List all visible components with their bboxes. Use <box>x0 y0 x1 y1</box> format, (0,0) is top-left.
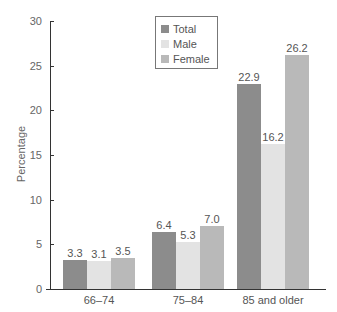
legend: Total Male Female <box>155 16 218 69</box>
bar-chart: Percentage 051015202530 3.33.13.566–746.… <box>0 0 337 312</box>
x-axis-line <box>46 289 326 290</box>
bar-male <box>87 261 111 289</box>
bar-total <box>237 84 261 289</box>
legend-item-total: Total <box>161 21 217 36</box>
bar-male <box>261 144 285 289</box>
legend-label-male: Male <box>173 38 197 50</box>
y-tick-label: 10 <box>12 194 42 206</box>
bar-value-label: 3.5 <box>103 245 143 257</box>
y-tick <box>50 155 54 156</box>
y-tick-label: 15 <box>12 149 42 161</box>
bar-male <box>176 242 200 289</box>
y-tick-label: 30 <box>12 15 42 27</box>
y-tick <box>50 289 54 290</box>
y-tick-label: 25 <box>12 60 42 72</box>
legend-item-male: Male <box>161 36 217 51</box>
y-tick-label: 5 <box>12 238 42 250</box>
bar-value-label: 7.0 <box>192 213 232 225</box>
bar-female <box>285 55 309 289</box>
x-category-label: 85 and older <box>217 294 329 306</box>
y-tick <box>50 66 54 67</box>
legend-swatch-male <box>161 40 169 48</box>
bar-value-label: 26.2 <box>277 42 317 54</box>
legend-swatch-total <box>161 25 169 33</box>
y-tick <box>50 244 54 245</box>
bar-value-label: 22.9 <box>229 71 269 83</box>
legend-label-female: Female <box>173 53 210 65</box>
y-tick <box>50 200 54 201</box>
y-tick-label: 20 <box>12 104 42 116</box>
y-tick-label: 0 <box>12 283 42 295</box>
y-tick <box>50 21 54 22</box>
bar-total <box>63 260 87 289</box>
legend-label-total: Total <box>173 23 196 35</box>
bar-female <box>200 226 224 289</box>
bar-female <box>111 258 135 289</box>
legend-item-female: Female <box>161 51 217 66</box>
legend-swatch-female <box>161 55 169 63</box>
y-tick <box>50 110 54 111</box>
